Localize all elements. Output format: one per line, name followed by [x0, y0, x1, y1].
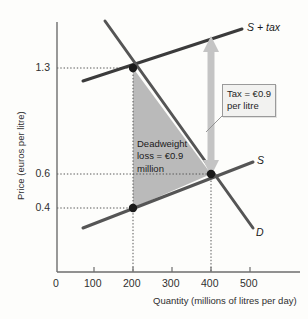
curve-label-supply-plus-tax: S + tax	[247, 21, 280, 33]
point-no-tax-equilibrium	[207, 170, 215, 178]
tax-callout-line-1: Tax = €0.9	[227, 88, 271, 100]
x-axis-title: Quantity (millions of litres per day)	[153, 296, 297, 307]
point-tax-equilibrium	[129, 64, 137, 72]
y-tick-label-0-4: 0.4	[24, 201, 50, 213]
x-tick-label-400: 400	[201, 277, 219, 289]
tax-double-arrow	[203, 36, 219, 176]
x-tick-label-0: 0	[53, 277, 59, 289]
supply-plus-tax-curve	[83, 29, 242, 81]
deadweight-loss-line-3: million	[137, 163, 187, 175]
point-supply-price-with-tax	[129, 204, 137, 212]
y-tick-label-0-6: 0.6	[24, 167, 50, 179]
x-tick-label-200: 200	[123, 277, 141, 289]
y-tick-label-1-3: 1.3	[24, 61, 50, 73]
supply-demand-tax-chart: 1.3 0.6 0.4 0 100 200 300 400 500 Price …	[0, 0, 308, 319]
deadweight-loss-label: Deadweight loss = €0.9 million	[137, 138, 187, 175]
tax-callout-line-2: per litre	[227, 100, 271, 112]
demand-curve	[105, 21, 253, 228]
x-tick-marks	[94, 267, 250, 272]
x-tick-label-100: 100	[84, 277, 102, 289]
x-tick-label-500: 500	[240, 277, 258, 289]
y-axis-title: Price (euros per litre)	[16, 111, 27, 200]
deadweight-loss-line-1: Deadweight	[137, 138, 187, 150]
tax-callout-box: Tax = €0.9 per litre	[222, 84, 276, 117]
curve-label-supply: S	[257, 154, 264, 166]
deadweight-loss-line-2: loss = €0.9	[137, 150, 187, 162]
x-tick-label-300: 300	[162, 277, 180, 289]
curve-label-demand: D	[256, 226, 264, 238]
